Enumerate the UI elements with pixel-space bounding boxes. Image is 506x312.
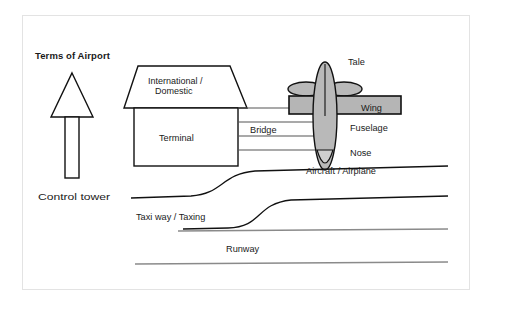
aircraft-label: Aircraft / Airplane (306, 166, 376, 176)
control-tower-roof-triangle (51, 73, 93, 117)
taxiway-curve-lower (183, 196, 448, 229)
control-tower-label: Control tower (38, 192, 110, 202)
runway-line-top (178, 229, 448, 231)
airport-terms-diagram-card: Terms of Airport Control tower Internati… (22, 15, 470, 290)
fuselage-label: Fuselage (350, 123, 388, 133)
terminal-roof-label-line2: Domestic (155, 86, 193, 96)
terminal-roof-label-line1: International / (148, 76, 203, 86)
diagram-title: Terms of Airport (35, 50, 111, 61)
taxiway-label: Taxi way / Taxing (136, 212, 205, 222)
control-tower-shape (51, 73, 93, 178)
airport-diagram-svg: Terms of Airport Control tower Internati… (23, 16, 471, 291)
screenshot-stage: Terms of Airport Control tower Internati… (0, 0, 506, 312)
tale-label: Tale (348, 57, 365, 67)
wing-label: Wing (361, 103, 382, 113)
nose-label: Nose (350, 148, 371, 158)
wing-rectangle (289, 96, 401, 114)
terminal-label: Terminal (159, 133, 194, 143)
runway-label: Runway (226, 244, 260, 254)
taxiway-curve-upper (131, 166, 448, 198)
runway-line-bottom (135, 262, 448, 264)
aircraft-shape (288, 62, 401, 170)
control-tower-shaft (65, 117, 79, 178)
bridge-label: Bridge (250, 125, 277, 135)
